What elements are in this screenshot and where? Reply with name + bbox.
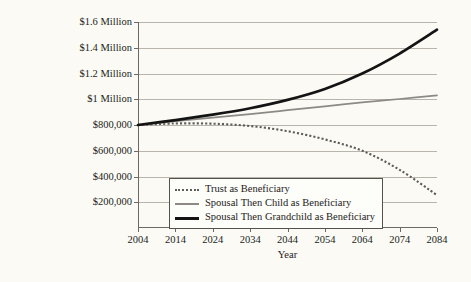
legend-swatch-grandchild-icon: [175, 212, 199, 222]
legend-swatch-child-icon: [175, 198, 199, 208]
legend-swatch-trust-icon: [175, 184, 199, 194]
x-axis-title: Year: [138, 249, 437, 260]
y-axis-tick-label: $600,000: [46, 145, 132, 156]
y-axis-tick-label: $1.2 Million: [46, 68, 132, 79]
y-axis-tick-label: $800,000: [46, 119, 132, 130]
y-axis-tick-label: $200,000: [46, 196, 132, 207]
legend-item: Spousal Then Child as Beneficiary: [175, 196, 375, 210]
x-axis-tick: [437, 228, 438, 232]
legend-item: Spousal Then Grandchild as Beneficiary: [175, 210, 375, 224]
x-axis-tick-label: 2054: [314, 234, 335, 246]
legend-label: Spousal Then Grandchild as Beneficiary: [205, 211, 375, 223]
chart-figure: Inflation-Adjusted Dollar Value of Remai…: [0, 0, 471, 282]
legend-label: Spousal Then Child as Beneficiary: [205, 197, 351, 209]
x-axis-tick: [400, 228, 401, 232]
legend-label: Trust as Beneficiary: [205, 183, 290, 195]
x-axis-tick-label: 2024: [202, 234, 223, 246]
x-axis-tick-label: 2014: [165, 234, 186, 246]
x-axis-tick-label: 2004: [128, 234, 149, 246]
y-axis-tick-label: $1.4 Million: [46, 42, 132, 53]
legend-item: Trust as Beneficiary: [175, 182, 375, 196]
y-axis-tick-labels: $200,000$400,000$600,000$800,000$1 Milli…: [44, 0, 132, 282]
x-axis-tick-label: 2034: [240, 234, 261, 246]
x-axis-tick-label: 2084: [427, 234, 448, 246]
y-axis-tick-label: $1 Million: [46, 93, 132, 104]
y-axis-tick-label: $1.6 Million: [46, 16, 132, 27]
y-axis-tick-label: $400,000: [46, 171, 132, 182]
x-axis-tick-label: 2074: [389, 234, 410, 246]
x-axis-tick-labels: 200420142024203420442054206420742084: [138, 234, 437, 248]
x-axis-tick: [138, 228, 139, 232]
x-axis-tick-label: 2064: [352, 234, 373, 246]
x-axis-tick-label: 2044: [277, 234, 298, 246]
chart-legend: Trust as Beneficiary Spousal Then Child …: [169, 178, 383, 229]
